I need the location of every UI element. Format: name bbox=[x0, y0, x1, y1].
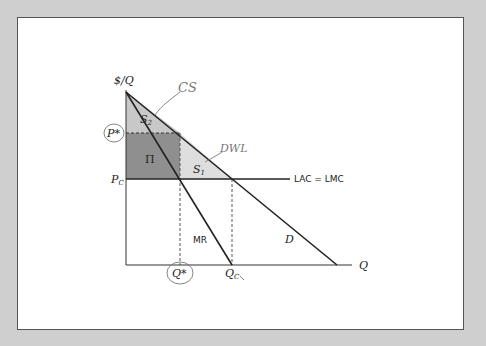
demand-label: D bbox=[284, 233, 294, 246]
lac-lmc-label: LAC = LMC bbox=[294, 174, 344, 184]
x-axis-label: Q bbox=[359, 259, 368, 272]
pi-label: Π bbox=[145, 153, 155, 166]
q-star-label: Q* bbox=[172, 267, 187, 280]
hand-dwl-annotation: DWL bbox=[219, 142, 247, 155]
y-axis-label: $/Q bbox=[114, 74, 134, 87]
cs-pointer-stroke bbox=[155, 92, 180, 115]
p-star-label: P* bbox=[106, 127, 120, 140]
qc-label: QC bbox=[225, 267, 240, 281]
pc-label: PC bbox=[110, 173, 124, 187]
monopoly-diagram: $/Q Q P* PC Q* QC S2 Π S1 LAC = LMC MR D… bbox=[0, 0, 486, 346]
hand-cs-annotation: CS bbox=[178, 80, 197, 95]
qc-hand-stroke bbox=[240, 276, 244, 280]
mr-label: MR bbox=[193, 235, 207, 245]
